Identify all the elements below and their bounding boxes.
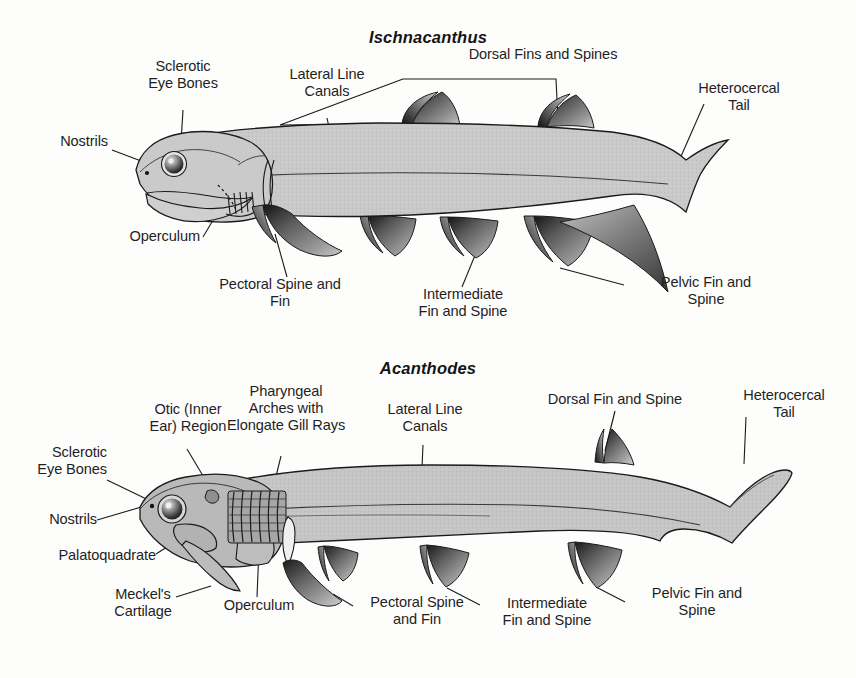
label-dorsal-fins-and-spines: Dorsal Fins and Spines: [408, 46, 678, 63]
nostril: [150, 504, 154, 508]
pharyngeal-arches-with-elongate-gill-rays: [228, 491, 286, 543]
anatomy-figure: Ischnacanthus Sclerotic Eye Bones Nostri…: [0, 0, 856, 678]
label-meckels-cartilage: Meckel's Cartilage: [88, 586, 198, 620]
label-pharyngeal-arches-with-elongate-gill-rays: Pharyngeal Arches with Elongate Gill Ray…: [212, 383, 360, 435]
label-nostrils: Nostrils: [0, 511, 97, 528]
label-palatoquadrate: Palatoquadrate: [0, 547, 156, 564]
eye: [162, 499, 183, 520]
panel-ischnacanthus: Ischnacanthus Sclerotic Eye Bones Nostri…: [0, 0, 856, 339]
leader-pelvic-fin-and-spine: [560, 268, 624, 285]
anal-fin: [324, 546, 358, 581]
otic-inner-ear-region: [205, 490, 219, 503]
intermediate-fin: [427, 545, 469, 587]
eye-highlight: [168, 158, 173, 163]
taxon-title-acanthodes: Acanthodes: [0, 359, 856, 378]
label-lateral-line-canals: Lateral Line Canals: [350, 401, 500, 435]
label-lateral-line-canals: Lateral Line Canals: [251, 66, 403, 100]
label-operculum: Operculum: [207, 597, 311, 614]
leader-heterocercal-tail: [744, 417, 746, 464]
taxon-title-ischnacanthus: Ischnacanthus: [0, 28, 856, 47]
label-heterocercal-tail: Heterocercal Tail: [712, 387, 856, 421]
label-pelvic-fin-and-spine: Pelvic Fin and Spine: [627, 585, 767, 619]
label-pectoral-spine-and-fin: Pectoral Spine and Fin: [355, 594, 479, 628]
label-sclerotic-eye-bones: Sclerotic Eye Bones: [108, 58, 258, 92]
panel-acanthodes: Acanthodes Otic (Inner Ear) Region Phary…: [0, 339, 856, 678]
eye-highlight: [166, 503, 172, 509]
label-heterocercal-tail: Heterocercal Tail: [661, 80, 817, 114]
intermediate-fin-anterior: [368, 215, 416, 256]
pectoral-spine: [283, 517, 295, 565]
label-pectoral-spine-and-fin: Pectoral Spine and Fin: [180, 276, 380, 310]
label-intermediate-fin-and-spine: Intermediate Fin and Spine: [383, 286, 543, 320]
nostril: [145, 171, 149, 175]
eye: [165, 155, 184, 174]
dorsal-fin: [604, 429, 634, 465]
label-nostrils: Nostrils: [0, 133, 108, 150]
dorsal-spine: [595, 429, 604, 463]
label-sclerotic-eye-bones: Sclerotic Eye Bones: [0, 444, 107, 478]
label-pelvic-fin-and-spine: Pelvic Fin and Spine: [626, 274, 786, 308]
intermediate-fin: [448, 217, 498, 258]
label-intermediate-fin-and-spine: Intermediate Fin and Spine: [481, 595, 613, 629]
label-operculum: Operculum: [40, 228, 200, 245]
label-dorsal-fin-and-spine: Dorsal Fin and Spine: [522, 391, 708, 408]
